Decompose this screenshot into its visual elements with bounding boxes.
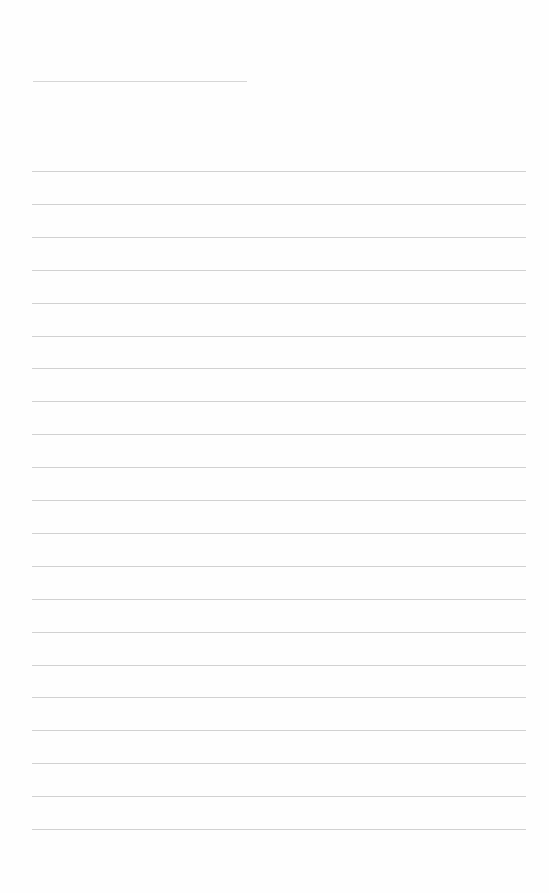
ruled-line <box>32 401 526 402</box>
ruled-line <box>32 336 526 337</box>
ruled-line <box>32 796 526 797</box>
ruled-line <box>32 730 526 731</box>
ruled-line <box>32 171 526 172</box>
ruled-line <box>32 697 526 698</box>
ruled-line <box>32 500 526 501</box>
header-rule <box>33 81 247 82</box>
ruled-line <box>32 270 526 271</box>
ruled-line <box>32 829 526 830</box>
ruled-line <box>32 237 526 238</box>
ruled-line <box>32 665 526 666</box>
ruled-line <box>32 566 526 567</box>
ruled-line <box>32 632 526 633</box>
ruled-line <box>32 434 526 435</box>
lined-page <box>0 0 549 893</box>
ruled-line <box>32 467 526 468</box>
ruled-line <box>32 533 526 534</box>
ruled-line <box>32 204 526 205</box>
ruled-line <box>32 763 526 764</box>
ruled-line <box>32 303 526 304</box>
ruled-line <box>32 368 526 369</box>
ruled-line <box>32 599 526 600</box>
